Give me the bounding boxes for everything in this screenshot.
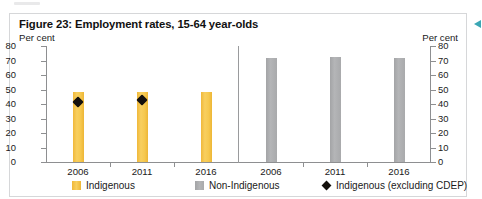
legend-label: Indigenous (excluding CDEP)	[336, 180, 467, 191]
left-axis-tick	[41, 61, 46, 62]
black-diamond-marker	[322, 181, 332, 191]
right-axis-tick	[431, 119, 436, 120]
right-axis-tick	[431, 46, 436, 47]
right-axis-tick-label: 40	[438, 99, 478, 108]
bar-non-indigenous-2006	[266, 58, 277, 162]
x-axis-tick	[303, 162, 304, 167]
left-axis-tick-label: 30	[0, 114, 16, 123]
chart-legend: IndigenousNon-IndigenousIndigenous (excl…	[10, 180, 468, 196]
right-axis-tick-label: 50	[438, 85, 478, 94]
right-axis-tick-label: 70	[438, 56, 478, 65]
legend-item-non-indigenous[interactable]: Non-Indigenous	[195, 180, 280, 191]
x-axis-category-label: 2011	[120, 167, 164, 178]
x-axis-category-label: 2006	[249, 167, 293, 178]
left-axis-tick-label: 80	[0, 41, 16, 50]
legend-item-indigenous-excluding-cdep[interactable]: Indigenous (excluding CDEP)	[322, 180, 467, 191]
grey-square-swatch	[195, 181, 204, 190]
right-axis-tick-label: 30	[438, 114, 478, 123]
left-axis-tick-label: 10	[0, 143, 16, 152]
right-axis-tick-label: 10	[438, 143, 478, 152]
figure-frame: Figure 23: Employment rates, 15-64 year-…	[9, 13, 467, 197]
scanned-page: Figure 23: Employment rates, 15-64 year-…	[0, 0, 482, 199]
right-axis-tick	[431, 75, 436, 76]
left-axis-tick	[41, 90, 46, 91]
right-axis-tick	[431, 133, 436, 134]
left-axis-line	[46, 46, 47, 163]
left-arrow-icon	[474, 20, 481, 28]
panel-divider	[238, 46, 239, 163]
scan-artifact	[14, 2, 40, 5]
x-axis-category-label: 2016	[184, 167, 228, 178]
x-axis-category-label: 2016	[377, 167, 421, 178]
right-axis-tick-label: 20	[438, 128, 478, 137]
right-axis-tick	[431, 104, 436, 105]
right-axis-tick	[431, 90, 436, 91]
x-axis-category-label: 2006	[56, 167, 100, 178]
right-axis-tick-label: 0	[438, 157, 478, 166]
plot-area: 01020304050607080 01020304050607080 2006…	[10, 14, 468, 198]
right-axis-tick	[431, 162, 436, 163]
bar-non-indigenous-2011	[330, 57, 341, 162]
legend-label: Non-Indigenous	[209, 180, 280, 191]
right-axis-tick	[431, 148, 436, 149]
left-axis-tick	[41, 104, 46, 105]
x-axis-tick	[367, 162, 368, 167]
left-axis-tick	[41, 148, 46, 149]
x-axis-tick	[110, 162, 111, 167]
left-axis-tick-label: 20	[0, 128, 16, 137]
left-axis-tick-label: 50	[0, 85, 16, 94]
left-axis-tick	[41, 75, 46, 76]
left-axis-tick	[41, 119, 46, 120]
right-axis-tick-label: 80	[438, 41, 478, 50]
legend-label: Indigenous	[86, 180, 135, 191]
bar-indigenous-2016	[201, 92, 212, 162]
bar-non-indigenous-2016	[394, 58, 405, 162]
right-axis-tick-label: 60	[438, 70, 478, 79]
x-axis-tick	[174, 162, 175, 167]
right-axis-tick	[431, 61, 436, 62]
legend-item-indigenous[interactable]: Indigenous	[72, 180, 135, 191]
left-axis-tick	[41, 162, 46, 163]
left-axis-tick-label: 40	[0, 99, 16, 108]
left-axis-tick-label: 70	[0, 56, 16, 65]
left-axis-tick-label: 0	[0, 157, 16, 166]
left-axis-tick	[41, 46, 46, 47]
left-axis-tick-label: 60	[0, 70, 16, 79]
x-axis-category-label: 2011	[313, 167, 357, 178]
left-axis-tick	[41, 133, 46, 134]
yellow-square-swatch	[72, 181, 81, 190]
